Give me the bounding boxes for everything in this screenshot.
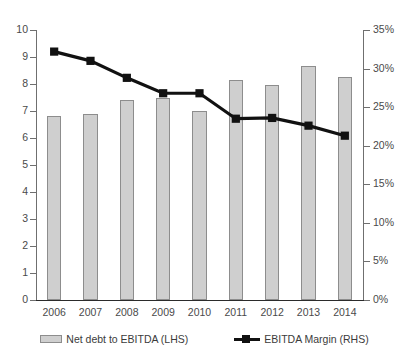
left-axis-tick-label: 9 — [22, 51, 28, 62]
right-axis-tick — [364, 146, 370, 147]
right-axis-tick — [364, 107, 370, 108]
right-axis-tick — [364, 30, 370, 31]
combo-chart: 012345678910 0%5%10%15%20%25%30%35% 2006… — [0, 0, 409, 359]
left-axis-tick-label: 10 — [16, 24, 28, 35]
line-marker-swatch-icon — [234, 334, 260, 344]
x-axis-label: 2006 — [34, 306, 74, 318]
left-axis-tick-label: 3 — [22, 213, 28, 224]
bar — [47, 116, 62, 300]
bar — [265, 85, 280, 300]
right-axis-tick — [364, 69, 370, 70]
left-axis-tick-label: 6 — [22, 132, 28, 143]
legend-item-ebitda-margin[interactable]: EBITDA Margin (RHS) — [234, 333, 368, 345]
right-axis-tick-label: 10% — [373, 217, 394, 228]
right-axis-tick — [364, 261, 370, 262]
bar — [229, 80, 244, 300]
bar — [192, 111, 207, 300]
left-axis-tick-label: 4 — [22, 186, 28, 197]
right-axis-tick-label: 5% — [373, 255, 388, 266]
right-axis-tick — [364, 223, 370, 224]
legend-label-ebitda-margin: EBITDA Margin (RHS) — [264, 333, 368, 345]
right-axis-tick-label: 25% — [373, 101, 394, 112]
left-axis-tick — [30, 300, 36, 301]
bar — [301, 66, 316, 300]
right-axis-tick-label: 0% — [373, 294, 388, 305]
x-axis-line — [30, 300, 369, 301]
left-axis-tick-label: 0 — [22, 294, 28, 305]
x-axis-label: 2010 — [180, 306, 220, 318]
x-axis-label: 2011 — [216, 306, 256, 318]
left-axis-tick-label: 7 — [22, 105, 28, 116]
plot-area — [36, 30, 363, 300]
right-axis-tick — [364, 300, 370, 301]
left-axis-tick-label: 2 — [22, 240, 28, 251]
line-marker — [123, 74, 131, 82]
right-axis-tick-label: 30% — [373, 63, 394, 74]
left-axis-tick-label: 5 — [22, 159, 28, 170]
line-marker — [159, 89, 167, 97]
bar — [338, 77, 353, 300]
chart-legend: Net debt to EBITDA (LHS) EBITDA Margin (… — [0, 333, 409, 345]
x-axis-label: 2012 — [252, 306, 292, 318]
line-marker — [195, 89, 203, 97]
x-axis-label: 2014 — [325, 306, 365, 318]
x-axis-label: 2007 — [71, 306, 111, 318]
line-marker — [50, 48, 58, 56]
bar-swatch-icon — [40, 335, 62, 343]
right-axis-tick-label: 15% — [373, 178, 394, 189]
right-axis-line — [363, 30, 364, 301]
x-axis-label: 2009 — [143, 306, 183, 318]
right-axis-tick — [364, 184, 370, 185]
legend-label-net-debt-to-ebitda: Net debt to EBITDA (LHS) — [66, 333, 188, 345]
left-axis-tick-label: 1 — [22, 267, 28, 278]
bar — [83, 114, 98, 300]
right-axis-tick-label: 35% — [373, 24, 394, 35]
legend-item-net-debt-to-ebitda[interactable]: Net debt to EBITDA (LHS) — [40, 333, 188, 345]
x-axis-label: 2013 — [289, 306, 329, 318]
left-axis-tick-label: 8 — [22, 78, 28, 89]
bar — [120, 100, 135, 300]
right-axis-tick-label: 20% — [373, 140, 394, 151]
bar — [156, 98, 171, 301]
line-marker — [86, 57, 94, 65]
x-axis-label: 2008 — [107, 306, 147, 318]
